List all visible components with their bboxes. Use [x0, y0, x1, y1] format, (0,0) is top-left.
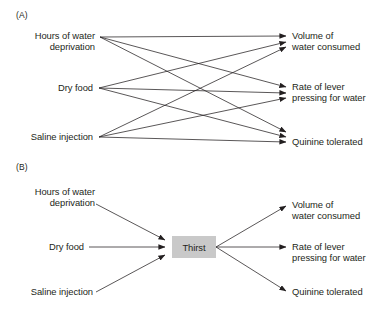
panel-b-label: (B) [16, 162, 28, 172]
panel-b-output-rate-lever-pressing: Rate of lever pressing for water [292, 241, 387, 263]
panel-a-input-hours-water-deprivation: Hours of water deprivation [0, 30, 95, 52]
panel-a-input-dry-food: Dry food [0, 82, 93, 93]
panel-b-input-saline-injection: Saline injection [0, 286, 93, 297]
panel-b-input-dry-food: Dry food [0, 241, 84, 252]
hub-box-thirst-label: Thirst [182, 242, 205, 253]
panel-a-input-saline-injection: Saline injection [0, 131, 93, 142]
panel-b-input-hours-water-deprivation-line1: Hours of water [0, 186, 95, 197]
edge-hours-to-thirst [96, 204, 165, 240]
edge-hours-to-volume [100, 36, 286, 37]
edge-hours-to-rate [100, 37, 286, 87]
panel-a-output-rate-lever-pressing: Rate of lever pressing for water [292, 81, 387, 103]
panel-a-label: (A) [16, 10, 28, 20]
panel-a-output-volume-water-consumed-line2: water consumed [292, 41, 387, 52]
panel-b-output-quinine-tolerated-line1: Quinine tolerated [292, 286, 387, 297]
panel-b-output-volume-water-consumed-line1: Volume of [292, 199, 387, 210]
panel-b-output-rate-lever-pressing-line1: Rate of lever [292, 241, 387, 252]
panel-b-input-saline-injection-line1: Saline injection [0, 286, 93, 297]
hub-box-thirst: Thirst [172, 236, 216, 258]
panel-b-output-volume-water-consumed-line2: water consumed [292, 210, 387, 221]
panel-a-output-quinine-tolerated: Quinine tolerated [292, 136, 387, 147]
edge-dryfood-to-quinine [99, 88, 286, 137]
panel-a-output-volume-water-consumed-line1: Volume of [292, 30, 387, 41]
panel-b-input-hours-water-deprivation: Hours of water deprivation [0, 186, 95, 208]
panel-a-output-rate-lever-pressing-line1: Rate of lever [292, 81, 387, 92]
panel-a-input-dry-food-line1: Dry food [0, 82, 93, 93]
panel-b-output-quinine-tolerated: Quinine tolerated [292, 286, 387, 297]
panel-a-input-hours-water-deprivation-line1: Hours of water [0, 30, 95, 41]
panel-a-input-hours-water-deprivation-line2: deprivation [0, 41, 95, 52]
edge-saline-to-thirst [96, 255, 165, 292]
panel-a-output-rate-lever-pressing-line2: pressing for water [292, 92, 387, 103]
panel-b-input-hours-water-deprivation-line2: deprivation [0, 197, 95, 208]
panel-a-input-saline-injection-line1: Saline injection [0, 131, 93, 142]
edge-thirst-to-quinine [216, 247, 286, 291]
panel-b-output-volume-water-consumed: Volume of water consumed [292, 199, 387, 221]
panel-a-output-volume-water-consumed: Volume of water consumed [292, 30, 387, 52]
panel-b-input-dry-food-line1: Dry food [0, 241, 84, 252]
panel-a-output-quinine-tolerated-line1: Quinine tolerated [292, 136, 387, 147]
panel-b-output-rate-lever-pressing-line2: pressing for water [292, 252, 387, 263]
edge-dryfood-to-volume [99, 42, 286, 88]
panel-a-edges [99, 36, 286, 142]
edge-thirst-to-volume [216, 206, 286, 247]
figure-root: (A) Hours of water deprivation Dry food … [0, 0, 387, 314]
edge-saline-to-quinine [99, 137, 286, 142]
